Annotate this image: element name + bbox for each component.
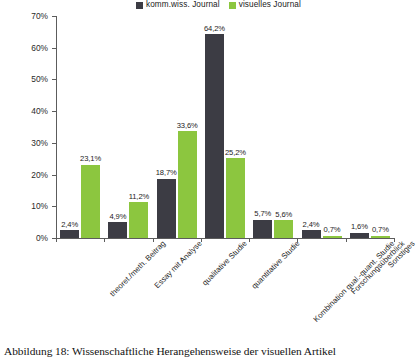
y-axis-tick: 60% [52,48,56,49]
bar: 5,7% [253,220,272,238]
y-axis-tick-label: 60% [31,43,48,53]
x-axis-category-label: qualitative Studie [200,239,248,287]
y-axis-tick: 70% [52,16,56,17]
bar: 5,6% [274,220,293,238]
bar: 64,2% [205,34,224,238]
bar: 2,4% [60,230,79,238]
legend-label-komm-wiss-journal: komm.wiss. Journal [146,1,220,9]
bar-group: 5,7%5,6% [253,16,293,238]
bar-group: 18,7%33,6% [157,16,197,238]
plot-area: 0%10%20%30%40%50%60%70% 2,4%23,1%4,9%11,… [56,16,394,238]
bar: 11,2% [129,202,148,238]
bar: 0,7% [323,236,342,238]
bar-value-label: 5,7% [254,209,271,218]
legend-swatch-dark [136,2,143,9]
bar: 25,2% [226,158,245,238]
legend-swatch-green [229,2,236,9]
bar: 4,9% [108,222,127,238]
y-axis-tick: 30% [52,143,56,144]
bar-value-label: 4,9% [109,212,126,221]
bar-value-label: 2,4% [303,220,320,229]
y-axis-tick: 50% [52,79,56,80]
y-axis-tick: 20% [52,175,56,176]
bar-value-label: 5,6% [275,210,292,219]
x-axis-category-label: quantitative Studie [250,239,302,291]
legend-label-visuelles-journal: visuelles Journal [239,1,301,9]
bar-group: 2,4%0,7% [302,16,342,238]
y-axis-tick: 40% [52,111,56,112]
x-axis-category-labels: theoret./meth. BeitragEssay mit Analyseq… [56,239,400,335]
bar-value-label: 25,2% [225,148,246,157]
y-axis-tick-label: 30% [31,138,48,148]
y-axis-tick-label: 70% [31,11,48,21]
y-axis-line [56,16,57,238]
y-axis-tick-label: 10% [31,201,48,211]
bar-value-label: 11,2% [129,192,149,201]
bar: 1,6% [350,233,369,238]
bar-value-label: 0,7% [324,225,341,234]
x-axis-category-label: Kombination qual.-quant. Studie [312,239,397,324]
x-axis-category-label: Forschungsüberblick [349,239,406,296]
bar-value-label: 18,7% [156,168,177,177]
bar: 23,1% [81,165,100,238]
bar: 33,6% [178,131,197,238]
y-axis-tick-label: 0% [36,233,48,243]
bar-group: 2,4%23,1% [60,16,100,238]
bar-value-label: 2,4% [61,220,78,229]
bar-value-label: 64,2% [204,24,225,33]
y-axis-tick-label: 20% [31,170,48,180]
legend-entry-visuelles-journal: visuelles Journal [229,1,301,9]
bar-value-label: 1,6% [351,222,368,231]
bar-value-label: 23,1% [80,154,101,163]
y-axis-tick-label: 40% [31,106,48,116]
bar: 2,4% [302,230,321,238]
figure-caption: Abbildung 18: Wissenschaftliche Herangeh… [4,345,400,357]
chart-legend: komm.wiss. Journal visuelles Journal [136,1,301,9]
bar: 0,7% [371,236,390,238]
bar-value-label: 0,7% [372,225,389,234]
bar-group: 64,2%25,2% [205,16,245,238]
bar-group: 1,6%0,7% [350,16,390,238]
bar: 18,7% [157,179,176,238]
bar-value-label: 33,6% [177,121,198,130]
y-axis-tick: 10% [52,206,56,207]
legend-entry-komm-wiss-journal: komm.wiss. Journal [136,1,220,9]
y-axis-tick-label: 50% [31,74,48,84]
bar-group: 4,9%11,2% [108,16,148,238]
